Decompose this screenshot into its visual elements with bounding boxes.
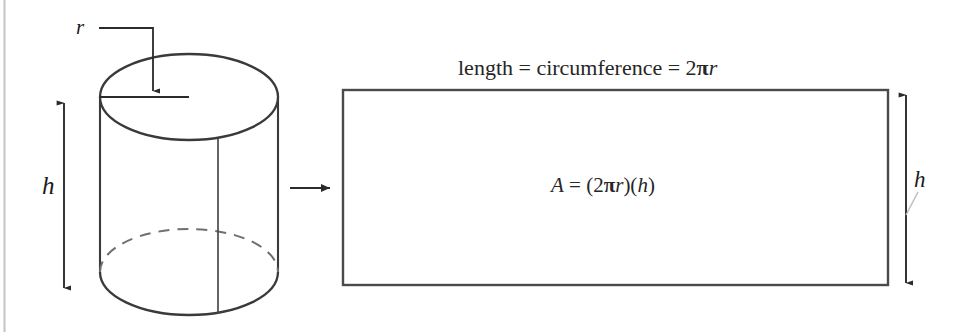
cylinder-shape xyxy=(100,54,278,315)
area-formula-height: h xyxy=(637,173,648,197)
rectangle-area-formula: A = (2πr)(h) xyxy=(551,175,655,196)
length-formula-pi: π xyxy=(697,55,709,80)
cylinder-bottom-hidden-arc xyxy=(100,229,278,272)
geometry-figure: r h h length = circumference = 2πr A = (… xyxy=(0,0,959,332)
length-formula-text-before: length = circumference = 2 xyxy=(458,55,697,80)
cylinder-height-label: h xyxy=(42,173,55,198)
length-formula-radius: r xyxy=(709,55,718,80)
figure-canvas xyxy=(0,0,959,332)
area-formula-pi: π xyxy=(604,173,616,197)
rectangle-height-tick xyxy=(906,192,918,215)
area-formula-middle: )( xyxy=(623,173,637,197)
rectangle-height-label: h xyxy=(914,168,926,191)
area-formula-close: ) xyxy=(648,173,655,197)
area-formula-symbol: A xyxy=(551,173,564,197)
cylinder-radius-label: r xyxy=(76,17,84,38)
cylinder-bottom-visible-arc xyxy=(100,272,278,315)
rectangle-length-formula: length = circumference = 2πr xyxy=(458,57,717,79)
area-formula-equals: = (2 xyxy=(564,173,604,197)
